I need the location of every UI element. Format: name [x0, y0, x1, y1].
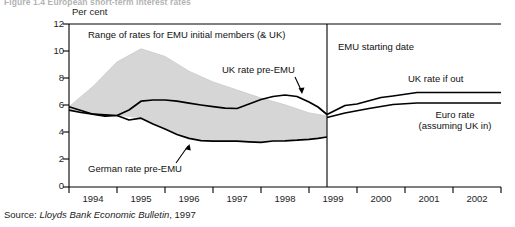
annotation-euro-rate-line2: (assuming UK in) [400, 120, 510, 131]
annotation-range-band: Range of rates for EMU initial members (… [88, 29, 285, 40]
figure-chart: Figure 1.4 European short-term interest … [0, 0, 515, 227]
y-axis-ticks [63, 24, 69, 187]
annotation-uk-rate-if-out: UK rate if out [408, 73, 463, 84]
german-pre-emu-arrow [176, 144, 191, 163]
annotation-uk-rate-pre-emu: UK rate pre-EMU [222, 64, 295, 75]
source-prefix: Source: [4, 209, 39, 220]
x-axis-ticks [69, 187, 501, 193]
annotation-euro-rate-line1: Euro rate [400, 109, 510, 120]
annotation-german-rate-pre-emu: German rate pre-EMU [88, 163, 182, 174]
uk-pre-emu-arrow [295, 77, 305, 94]
source-note: Source: Lloyds Bank Economic Bulletin, 1… [4, 209, 196, 220]
source-publication: Lloyds Bank Economic Bulletin [39, 209, 169, 220]
source-year: , 1997 [169, 209, 195, 220]
annotation-emu-start: EMU starting date [338, 41, 414, 52]
